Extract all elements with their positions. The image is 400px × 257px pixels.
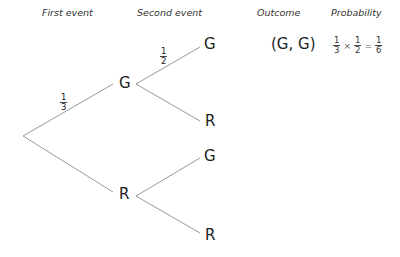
prob-factor-a: 1 3 xyxy=(333,36,340,55)
branch-r-to-r xyxy=(136,196,200,233)
equals-sign: = xyxy=(364,41,372,51)
prob-factor-b: 1 2 xyxy=(354,36,361,55)
times-sign: × xyxy=(343,41,351,51)
prob-result: 1 6 xyxy=(375,36,382,55)
probability-gg: 1 3 × 1 2 = 1 6 xyxy=(333,36,382,55)
branch-r-to-g xyxy=(136,158,200,196)
branch-root-to-r xyxy=(23,136,113,192)
node-g-g: G xyxy=(204,37,216,52)
outcome-gg: (G, G) xyxy=(271,37,316,52)
node-r-g: G xyxy=(204,149,216,164)
branch-g-to-r xyxy=(136,84,200,121)
node-first-g: G xyxy=(119,76,131,91)
branch-g-to-g xyxy=(136,47,200,84)
branch-prob-first-g: 1 3 xyxy=(60,92,67,112)
branch-root-to-g xyxy=(23,84,113,136)
node-r-r: R xyxy=(205,228,215,243)
branch-prob-g-g: 1 2 xyxy=(160,46,167,66)
node-first-r: R xyxy=(119,187,129,202)
node-g-r: R xyxy=(205,114,215,129)
